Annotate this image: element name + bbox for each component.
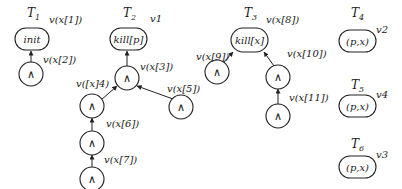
root-node-text: (p,x) — [346, 162, 369, 173]
node-label: v(x[6]) — [106, 118, 139, 129]
tree-title: T5 — [351, 78, 364, 94]
node-label: v1 — [150, 13, 162, 24]
root-node-text: init — [24, 34, 42, 45]
node-label: v(x[7]) — [104, 154, 137, 165]
and-node-text: ∧ — [274, 71, 282, 84]
node-label: v4 — [376, 89, 388, 100]
node-label: v([x]4) — [76, 78, 109, 89]
node-label: v(x[10]) — [287, 48, 327, 59]
root-node-text: kill[x] — [235, 35, 264, 46]
node-label: v(x[11]) — [289, 92, 329, 103]
and-node-text: ∧ — [177, 101, 185, 114]
tree-title: T4 — [351, 6, 364, 22]
root-node-text: (p,x) — [346, 101, 369, 112]
and-node-text: ∧ — [123, 72, 131, 85]
tree-t6: T6 (p,x) v3 — [339, 137, 388, 178]
node-label: v(x[8]) — [266, 14, 299, 25]
root-node-text: kill[p] — [114, 34, 144, 45]
node-label: v3 — [376, 149, 388, 160]
and-node-text: ∧ — [88, 100, 96, 113]
root-node-text: (p,x) — [346, 36, 369, 47]
tree-t4: T4 (p,x) v2 — [339, 6, 388, 52]
node-label: v(x[3]) — [140, 61, 173, 72]
and-node-text: ∧ — [88, 173, 96, 186]
node-label: v2 — [376, 24, 388, 35]
tree-title: T6 — [351, 137, 364, 153]
node-label: v(x[2]) — [43, 54, 76, 65]
and-node-text: ∧ — [213, 66, 221, 79]
tree-t2: T2 kill[p] v1 ∧ v(x[3]) ∧ v([x]4) ∧ v(x[… — [76, 6, 200, 189]
tree-t1: T1 init v(x[1]) ∧ v(x[2]) — [15, 6, 82, 86]
and-node-text: ∧ — [27, 68, 35, 81]
tree-title: T1 — [27, 6, 40, 22]
node-label: v(x[1]) — [49, 14, 82, 25]
and-node-text: ∧ — [274, 110, 282, 123]
tree-t3: T3 kill[x] v(x[8]) ∧ v(x[9]) ∧ v(x[10]) … — [196, 6, 329, 128]
and-node-text: ∧ — [88, 137, 96, 150]
tree-title: T3 — [244, 6, 257, 22]
edge — [264, 52, 274, 66]
tree-diagram: T1 init v(x[1]) ∧ v(x[2]) T2 kill[p] v1 … — [0, 0, 402, 189]
node-label: v(x[9]) — [196, 51, 229, 62]
tree-title: T2 — [123, 6, 136, 22]
tree-t5: T5 (p,x) v4 — [339, 78, 388, 117]
node-label: v(x[5]) — [167, 83, 200, 94]
